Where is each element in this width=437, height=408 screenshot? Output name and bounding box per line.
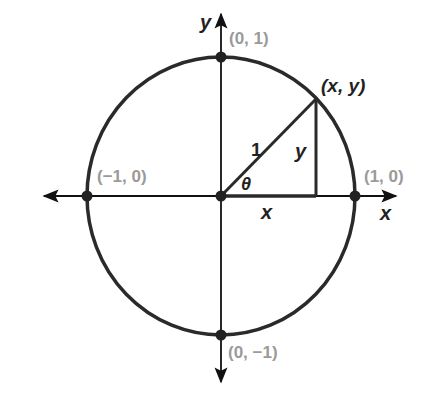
point-origin — [216, 191, 227, 202]
x-axis-label: x — [379, 202, 392, 224]
point-right — [350, 191, 361, 202]
hypotenuse-label: 1 — [251, 139, 262, 160]
label-left: (−1, 0) — [97, 167, 147, 186]
point-left — [82, 191, 93, 202]
point-top — [216, 52, 227, 63]
y-axis-label: y — [199, 11, 212, 33]
unit-circle-diagram: y x (0, 1) (1, 0) (−1, 0) (0, −1) (x, y)… — [0, 0, 437, 408]
horizontal-leg-label: x — [260, 201, 273, 223]
label-terminal: (x, y) — [321, 75, 365, 96]
label-bottom: (0, −1) — [228, 343, 278, 362]
label-top: (0, 1) — [229, 29, 269, 48]
label-right: (1, 0) — [364, 167, 404, 186]
point-bottom — [216, 330, 227, 341]
angle-label: θ — [241, 174, 251, 194]
vertical-leg-label: y — [294, 140, 307, 162]
